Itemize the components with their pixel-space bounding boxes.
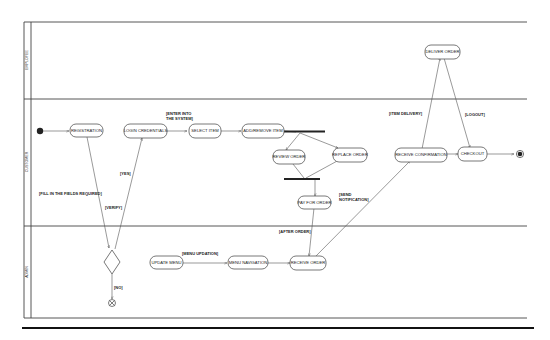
node-review-order: REVIEW ORDER: [273, 150, 306, 164]
svg-text:MENU NAVIGATION: MENU NAVIGATION: [229, 260, 268, 265]
guard-after-order: [AFTER ORDER]: [279, 229, 311, 234]
node-registration: REGISTRATION: [70, 124, 103, 137]
lane-label-admin: ADMIN: [25, 266, 29, 278]
node-receive-confirmation: RECEIVE CONFIRMATION: [395, 148, 447, 162]
svg-text:SELECT ITEM: SELECT ITEM: [191, 128, 219, 133]
guard-fill-fields: [FILL IN THE FIELDS REQUIRED]: [39, 191, 102, 196]
svg-text:CHECKOUT: CHECKOUT: [461, 151, 485, 156]
node-select-item: SELECT ITEM: [189, 124, 221, 138]
guard-enter-system-line2: THE SYSTEM]: [166, 116, 194, 121]
guard-item-delivery: [ITEM DELIVERY]: [389, 111, 423, 116]
svg-text:ADD/REMOVE ITEM: ADD/REMOVE ITEM: [243, 128, 283, 133]
node-checkout: CHECKOUT: [458, 147, 487, 161]
guard-yes: [YES]: [120, 171, 131, 176]
svg-text:RECEIVE CONFIRMATION: RECEIVE CONFIRMATION: [395, 152, 447, 157]
node-login-credentials: LOGIN CREDENTIALS: [124, 124, 168, 138]
guard-logout: [LOGOUT]: [465, 112, 485, 117]
decision-node: [104, 250, 120, 274]
svg-text:REVIEW ORDER: REVIEW ORDER: [273, 154, 306, 159]
node-pay-for-order: PAY FOR ORDER: [298, 196, 332, 209]
node-replace-order: REPLACE ORDER: [332, 148, 368, 162]
swimlane-frame: [22, 22, 534, 328]
node-add-remove-item: ADD/REMOVE ITEM: [242, 124, 284, 138]
svg-text:RECEIVE ORDER: RECEIVE ORDER: [291, 260, 326, 265]
svg-text:REGISTRATION: REGISTRATION: [71, 128, 102, 133]
svg-text:DELIVER ORDER: DELIVER ORDER: [425, 49, 459, 54]
node-receive-order: RECEIVE ORDER: [290, 256, 326, 270]
end-node: [516, 150, 523, 157]
node-menu-navigation: MENU NAVIGATION: [228, 256, 268, 269]
activity-diagram: EMPLOYEE CUSTOMER ADMIN: [0, 0, 550, 340]
svg-text:UPDATE MENU: UPDATE MENU: [151, 260, 181, 265]
join-bar: [284, 178, 320, 180]
guard-send-notification-line2: NOTIFICATION]: [339, 197, 369, 202]
fork-bar: [284, 131, 325, 133]
svg-text:REPLACE ORDER: REPLACE ORDER: [332, 152, 368, 157]
guard-verify: [VERIFY]: [105, 205, 123, 210]
node-update-menu: UPDATE MENU: [150, 256, 183, 269]
start-node: [37, 128, 43, 134]
svg-text:LOGIN CREDENTIALS: LOGIN CREDENTIALS: [124, 128, 168, 133]
guard-menu-updation: [MENU UPDATION]: [182, 251, 219, 256]
lane-label-employee: EMPLOYEE: [25, 50, 29, 70]
guard-no: [NO]: [114, 285, 123, 290]
node-deliver-order: DELIVER ORDER: [425, 45, 460, 59]
flow-final-node: [109, 300, 116, 307]
svg-text:PAY FOR ORDER: PAY FOR ORDER: [298, 200, 332, 205]
lane-label-customer: CUSTOMER: [25, 151, 29, 172]
